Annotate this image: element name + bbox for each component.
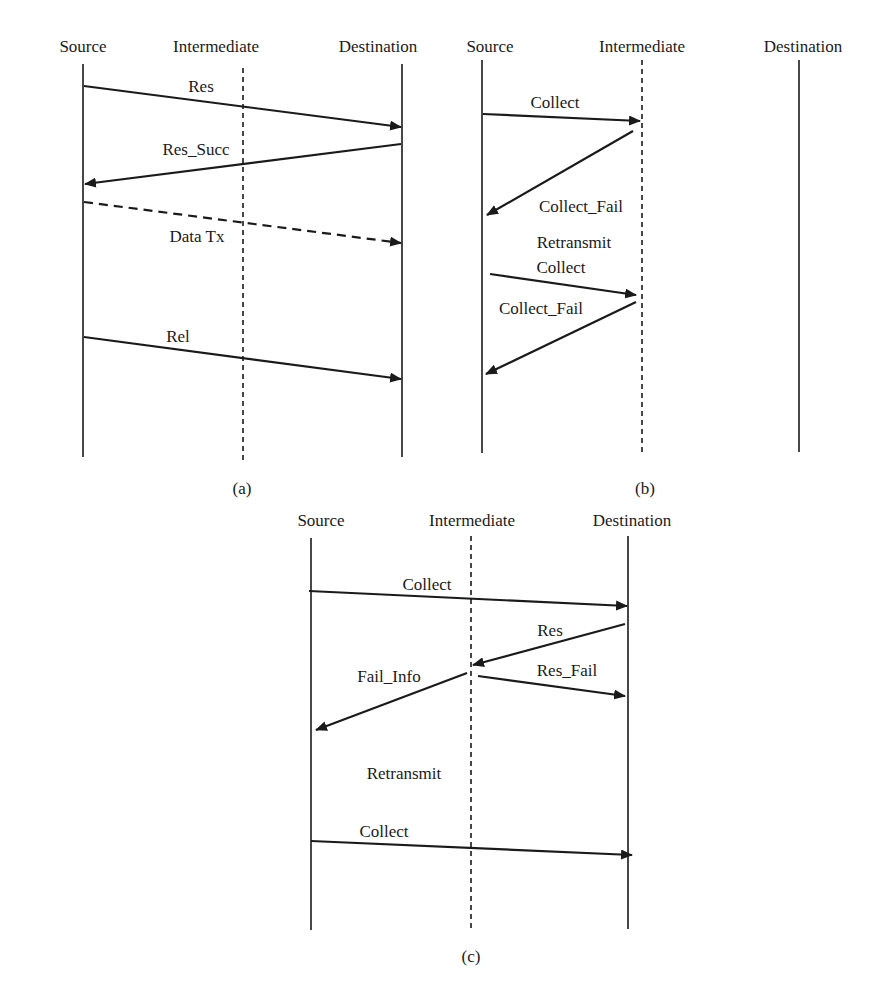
message-arrow-collect — [483, 114, 640, 121]
message-label-rel: Rel — [166, 327, 190, 346]
lifeline-label-destination: Destination — [339, 37, 418, 56]
message-label-collect-2: Collect — [359, 822, 408, 841]
message-label-collect-fail-2: Collect_Fail — [499, 299, 583, 318]
lifeline-label-intermediate: Intermediate — [173, 37, 259, 56]
note-retransmit: Retransmit — [537, 233, 612, 252]
panel-c: Source Intermediate Destination Collect … — [297, 511, 671, 966]
message-label-collect-fail: Collect_Fail — [539, 197, 623, 216]
panel-caption-c: (c) — [462, 947, 481, 966]
lifeline-label-intermediate: Intermediate — [429, 511, 515, 530]
message-label-res: Res — [188, 77, 214, 96]
sequence-diagram-figure: Source Intermediate Destination Res Res_… — [0, 0, 893, 993]
lifeline-label-source: Source — [59, 37, 106, 56]
message-arrow-collect — [309, 591, 627, 606]
message-label-data-tx: Data Tx — [170, 227, 225, 246]
panel-a: Source Intermediate Destination Res Res_… — [59, 37, 417, 498]
lifeline-label-destination: Destination — [593, 511, 672, 530]
lifeline-label-destination: Destination — [764, 37, 843, 56]
message-label-res-fail: Res_Fail — [537, 661, 598, 680]
message-label-collect: Collect — [530, 93, 579, 112]
panel-caption-a: (a) — [233, 479, 252, 498]
message-arrow-collect-retransmit — [490, 274, 636, 295]
message-arrow-rel — [84, 337, 401, 379]
lifeline-label-source: Source — [297, 511, 344, 530]
message-label-fail-info: Fail_Info — [357, 667, 420, 686]
message-label-collect: Collect — [402, 575, 451, 594]
lifeline-label-source: Source — [466, 37, 513, 56]
note-retransmit: Retransmit — [367, 764, 442, 783]
message-label-res: Res — [537, 621, 563, 640]
message-label-res-succ: Res_Succ — [162, 140, 230, 159]
message-arrow-res — [84, 86, 401, 127]
panel-b: Source Intermediate Destination Collect … — [466, 37, 842, 498]
lifeline-label-intermediate: Intermediate — [599, 37, 685, 56]
message-label-collect-retransmit: Collect — [536, 258, 585, 277]
panel-caption-b: (b) — [635, 479, 655, 498]
